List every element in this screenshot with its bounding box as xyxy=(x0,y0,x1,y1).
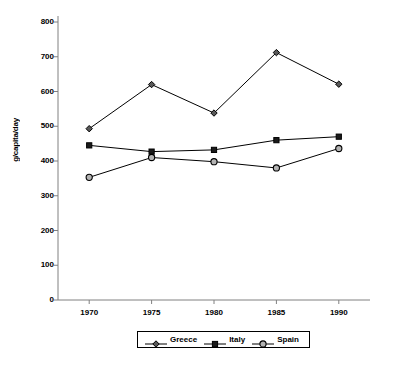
data-point-diamond-icon xyxy=(153,340,159,346)
data-point-diamond-icon xyxy=(148,81,154,87)
data-point-circle-icon xyxy=(86,174,92,180)
data-point-circle-icon xyxy=(211,159,217,165)
legend-item-italy: Italy xyxy=(204,335,248,345)
circle-icon xyxy=(252,335,274,345)
legend-label: Greece xyxy=(170,336,197,344)
data-point-square-icon xyxy=(274,138,279,143)
data-point-square-icon xyxy=(213,341,218,346)
series-greece xyxy=(86,49,342,132)
series-line xyxy=(89,53,339,129)
data-point-circle-icon xyxy=(149,154,155,160)
data-point-square-icon xyxy=(211,147,216,152)
line-chart: g/capita/day 0100200300400500600700800 1… xyxy=(0,0,404,367)
legend-item-greece: Greece xyxy=(145,335,200,345)
diamond-icon xyxy=(145,335,167,345)
data-point-diamond-icon xyxy=(86,125,92,131)
data-point-square-icon xyxy=(87,143,92,148)
plot-area xyxy=(0,0,404,367)
legend-item-spain: Spain xyxy=(252,335,302,345)
data-point-square-icon xyxy=(149,149,154,154)
chart-legend: GreeceItalySpain xyxy=(137,331,310,348)
series-italy xyxy=(87,134,342,154)
data-point-circle-icon xyxy=(336,145,342,151)
data-point-square-icon xyxy=(336,134,341,139)
data-point-circle-icon xyxy=(273,165,279,171)
legend-label: Italy xyxy=(229,336,245,344)
square-icon xyxy=(204,335,226,345)
data-point-diamond-icon xyxy=(336,81,342,87)
data-point-circle-icon xyxy=(260,340,266,346)
legend-label: Spain xyxy=(277,336,299,344)
